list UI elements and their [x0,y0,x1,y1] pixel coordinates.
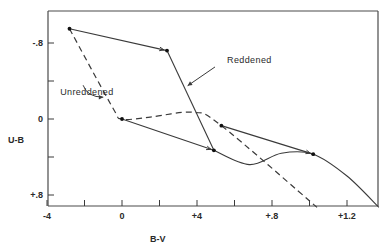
plot-frame [48,11,378,206]
reddening-vector [122,119,214,150]
data-point [120,117,124,121]
y-axis-title: U-B [8,135,24,145]
data-point [219,124,223,128]
data-point [212,148,216,152]
annotations: ReddenedUnreddened [60,55,272,99]
reddened-label: Reddened [227,55,272,65]
x-tick-label: +.8 [266,211,279,221]
x-tick-label: -4 [43,211,51,221]
data-point [165,49,169,53]
y-tick-label: 0 [38,114,43,124]
intrinsic-curve [214,150,379,207]
unreddened-curve [70,29,318,208]
data-point [311,152,315,156]
annotation-arrowhead [188,81,193,85]
data-point [68,27,72,31]
x-tick-label: 0 [119,211,124,221]
intrinsic-curve-segment [167,51,214,151]
annotation-arrow [188,67,215,86]
x-axis-title: B-V [150,234,166,244]
x-tick-label: +1.2 [338,211,356,221]
color-color-diagram: -40+4+.8+1.2-.80+.8 ReddenedUnreddened U… [0,0,385,247]
x-tick-label: +4 [192,211,202,221]
y-tick-label: +.8 [30,190,43,200]
axis-ticks: -40+4+.8+1.2-.80+.8 [30,38,356,221]
reddening-vector [221,126,313,154]
reddening-vector [70,29,168,51]
y-tick-label: -.8 [32,38,43,48]
series [70,29,379,208]
